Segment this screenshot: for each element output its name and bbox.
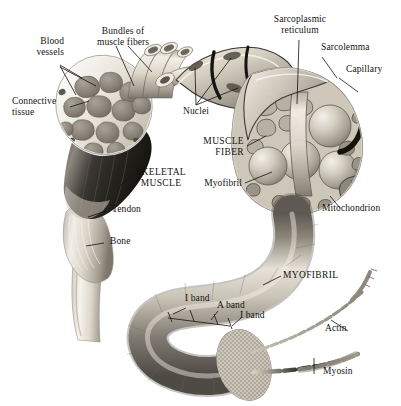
- label-skeletal-muscle: SKELETAL MUSCLE: [128, 167, 194, 188]
- skeletal-muscle-diagram: Blood vessels Bundles of muscle fibers C…: [0, 0, 401, 406]
- label-capillary: Capillary: [346, 64, 382, 75]
- label-nuclei: Nuclei: [176, 106, 216, 117]
- label-i-band-right: I band: [240, 310, 265, 321]
- label-blood-vessels: Blood vessels: [18, 36, 64, 57]
- label-muscle-fiber: MUSCLE FIBER: [186, 136, 244, 157]
- label-bone: Bone: [110, 236, 130, 247]
- label-a-band: A band: [217, 300, 245, 311]
- label-i-band-left: I band: [185, 293, 210, 304]
- label-sarcoplasmic-reticulum: Sarcoplasmic reticulum: [268, 14, 332, 35]
- label-actin: Actin: [325, 323, 347, 334]
- label-tendon: Tendon: [112, 204, 141, 215]
- label-bundles-of-muscle-fibers: Bundles of muscle fibers: [75, 26, 171, 47]
- label-connective-tissue: Connective tissue: [12, 96, 74, 117]
- label-myofibril: Myofibril: [194, 178, 242, 189]
- label-sarcolemma: Sarcolemma: [321, 42, 369, 53]
- label-myofibril-caps: MYOFIBRIL: [283, 270, 338, 281]
- label-mitochondrion: Mitochondrion: [322, 203, 380, 214]
- label-myosin: Myosin: [323, 366, 353, 377]
